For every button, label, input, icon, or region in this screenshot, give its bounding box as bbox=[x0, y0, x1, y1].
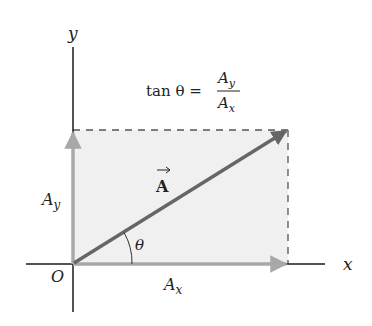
ax-label: Ax bbox=[162, 275, 183, 297]
formula-lhs: tan θ = bbox=[146, 82, 202, 100]
angle-theta-label: θ bbox=[135, 236, 144, 254]
y-axis-label: y bbox=[67, 23, 78, 43]
x-axis-label: x bbox=[343, 254, 353, 274]
vector-a-label: A bbox=[155, 177, 169, 196]
origin-label: O bbox=[51, 267, 64, 286]
formula-denominator: Ax bbox=[216, 94, 236, 115]
formula-numerator: Ay bbox=[216, 69, 236, 90]
vector-diagram: y x O Ax Ay A θ tan θ = Ay Ax bbox=[0, 0, 372, 326]
ay-label: Ay bbox=[40, 190, 61, 212]
